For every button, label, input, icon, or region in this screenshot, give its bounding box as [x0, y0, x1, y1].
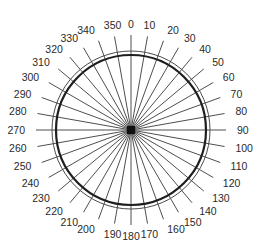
angle-label-180: 180 — [122, 230, 140, 242]
angle-label-150: 150 — [184, 216, 202, 228]
polar-angle-diagram: 0102030405060708090100110120130140150160… — [0, 0, 268, 251]
angle-label-100: 100 — [235, 142, 253, 154]
angle-label-130: 130 — [212, 192, 230, 204]
angle-label-350: 350 — [104, 19, 122, 31]
angle-label-220: 220 — [45, 205, 63, 217]
angle-label-200: 200 — [77, 223, 95, 235]
angle-label-10: 10 — [144, 19, 156, 31]
angle-label-240: 240 — [22, 177, 40, 189]
angle-label-300: 300 — [22, 71, 40, 83]
angle-label-280: 280 — [9, 105, 27, 117]
angle-label-140: 140 — [199, 205, 217, 217]
angle-label-50: 50 — [212, 56, 224, 68]
angle-label-0: 0 — [128, 18, 134, 30]
angle-label-160: 160 — [167, 223, 185, 235]
angle-label-270: 270 — [7, 124, 25, 136]
angle-label-30: 30 — [184, 32, 196, 44]
angle-label-260: 260 — [9, 142, 27, 154]
angle-label-210: 210 — [60, 216, 78, 228]
angle-label-70: 70 — [231, 88, 243, 100]
angle-label-250: 250 — [14, 160, 32, 172]
angle-label-40: 40 — [199, 43, 211, 55]
angle-label-320: 320 — [45, 43, 63, 55]
angle-label-310: 310 — [32, 56, 50, 68]
angle-label-120: 120 — [223, 177, 241, 189]
angle-label-60: 60 — [223, 71, 235, 83]
angle-label-290: 290 — [14, 88, 32, 100]
angle-label-80: 80 — [235, 105, 247, 117]
angle-label-170: 170 — [141, 228, 159, 240]
center-hub — [127, 126, 135, 134]
angle-label-190: 190 — [104, 228, 122, 240]
angle-label-20: 20 — [167, 24, 179, 36]
angle-label-330: 330 — [60, 32, 78, 44]
angle-label-230: 230 — [32, 192, 50, 204]
angle-label-90: 90 — [237, 124, 249, 136]
angle-label-110: 110 — [231, 160, 248, 172]
angle-label-340: 340 — [77, 24, 95, 36]
